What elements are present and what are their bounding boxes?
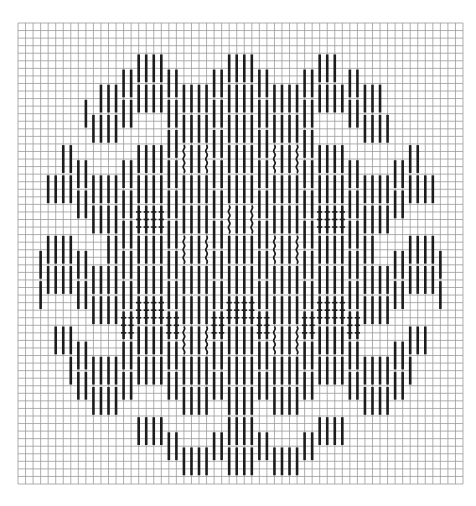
stitch-chart: Needlepoint stitch chart: [0, 0, 476, 506]
stitch-grid-canvas: [0, 0, 476, 506]
